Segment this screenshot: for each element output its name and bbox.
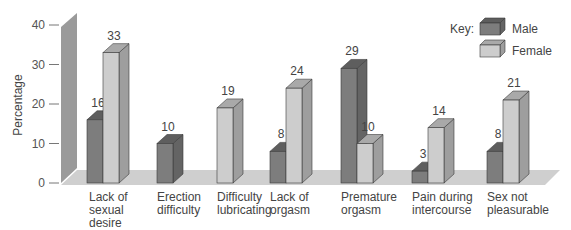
y-tick-label: 20 bbox=[32, 97, 46, 111]
bar-female: 21 bbox=[503, 76, 529, 183]
y-tick-label: 30 bbox=[32, 58, 46, 72]
y-axis-title: Percentage bbox=[11, 74, 25, 136]
category-label: Sex notpleasurable bbox=[487, 190, 549, 217]
legend-item-male: Male bbox=[480, 18, 538, 36]
value-label: 8 bbox=[495, 127, 502, 141]
bar-female: 24 bbox=[286, 64, 312, 183]
back-wall bbox=[61, 13, 77, 183]
y-tick-label: 10 bbox=[32, 137, 46, 151]
legend-title: Key: bbox=[450, 22, 474, 36]
value-label: 29 bbox=[345, 44, 359, 58]
value-label: 24 bbox=[290, 64, 304, 78]
y-axis: 010203040 bbox=[32, 18, 59, 190]
y-tick-label: 0 bbox=[38, 176, 45, 190]
category-label: Prematureorgasm bbox=[341, 190, 397, 217]
value-label: 10 bbox=[361, 120, 375, 134]
bar-female: 10 bbox=[357, 120, 383, 184]
bar-male: 10 bbox=[157, 120, 183, 184]
x-axis-labels: Lack ofsexualdesireErectiondifficultyDif… bbox=[89, 190, 549, 230]
value-label: 14 bbox=[432, 104, 446, 118]
value-label: 33 bbox=[107, 29, 121, 43]
legend: Key:MaleFemale bbox=[450, 18, 552, 58]
wall-face bbox=[61, 13, 77, 183]
bar-chart: 010203040 163310198242910314821 Lack ofs… bbox=[0, 0, 571, 230]
value-label: 19 bbox=[221, 84, 235, 98]
category-label: Lack ofsexualdesire bbox=[89, 190, 128, 230]
bars: 163310198242910314821 bbox=[87, 29, 529, 183]
value-label: 21 bbox=[507, 76, 521, 90]
value-label: 3 bbox=[420, 147, 427, 161]
y-tick-label: 40 bbox=[32, 18, 46, 32]
category-label: Lack oforgasm bbox=[270, 190, 310, 217]
value-label: 10 bbox=[161, 120, 175, 134]
chart-canvas: 010203040 163310198242910314821 Lack ofs… bbox=[0, 0, 571, 230]
category-label: Difficultylubricating bbox=[217, 190, 272, 217]
bar-female: 19 bbox=[217, 84, 243, 183]
category-label: Erectiondifficulty bbox=[157, 190, 201, 217]
legend-label: Male bbox=[512, 22, 538, 36]
value-label: 8 bbox=[278, 127, 285, 141]
bar-female: 33 bbox=[103, 29, 129, 183]
legend-label: Female bbox=[512, 44, 552, 58]
category-label: Pain duringintercourse bbox=[412, 190, 473, 217]
legend-item-female: Female bbox=[480, 40, 552, 58]
bar-female: 14 bbox=[428, 104, 454, 183]
